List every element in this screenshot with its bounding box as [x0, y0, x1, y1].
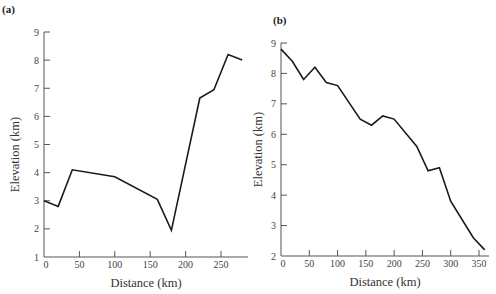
- x-tick-label: 200: [178, 259, 193, 270]
- x-axis-label: Distance (km): [110, 276, 181, 290]
- y-tick-label: 9: [34, 27, 39, 38]
- y-tick-label: 8: [34, 55, 39, 66]
- elevation-line: [44, 55, 242, 231]
- y-tick-label: 7: [34, 83, 39, 94]
- chart-panel-b: 23456789050100150200250300350Distance (k…: [251, 14, 489, 289]
- y-tick-label: 3: [34, 195, 39, 206]
- x-tick-label: 0: [281, 258, 286, 269]
- x-tick-label: 150: [143, 259, 158, 270]
- y-tick-label: 6: [34, 111, 39, 122]
- y-tick-label: 4: [271, 190, 276, 201]
- y-tick-label: 6: [271, 129, 276, 140]
- x-tick-label: 150: [358, 258, 373, 269]
- panel-label: (b): [273, 14, 287, 27]
- x-tick-label: 100: [107, 259, 122, 270]
- y-axis-label: Elevation (km): [251, 112, 265, 187]
- y-tick-label: 5: [34, 139, 39, 150]
- y-tick-label: 1: [34, 252, 39, 263]
- elevation-profiles-figure: 123456789050100150200250Distance (km)Ele…: [0, 0, 496, 294]
- x-tick-label: 250: [415, 258, 430, 269]
- y-tick-label: 7: [271, 98, 276, 109]
- panel-label: (a): [2, 3, 15, 16]
- x-tick-label: 250: [214, 259, 229, 270]
- y-tick-label: 3: [271, 220, 276, 231]
- y-axis-label: Elevation (km): [8, 117, 22, 192]
- y-tick-label: 2: [34, 223, 39, 234]
- y-tick-label: 5: [271, 159, 276, 170]
- x-axis-label: Distance (km): [349, 275, 420, 289]
- x-tick-label: 50: [74, 259, 84, 270]
- y-tick-label: 2: [271, 251, 276, 262]
- y-tick-label: 9: [271, 38, 276, 49]
- x-tick-label: 200: [387, 258, 402, 269]
- chart-panel-a: 123456789050100150200250Distance (km)Ele…: [2, 3, 248, 290]
- elevation-line: [281, 49, 485, 250]
- x-tick-label: 0: [44, 259, 49, 270]
- x-tick-label: 50: [304, 258, 314, 269]
- y-tick-label: 8: [271, 68, 276, 79]
- x-tick-label: 300: [443, 258, 458, 269]
- x-tick-label: 100: [330, 258, 345, 269]
- x-tick-label: 350: [471, 258, 486, 269]
- y-tick-label: 4: [34, 167, 39, 178]
